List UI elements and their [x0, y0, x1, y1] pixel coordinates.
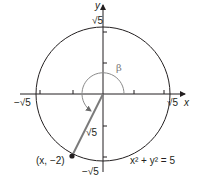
point-label: (x, −2)	[36, 155, 65, 166]
tick-label-bottom: −√5	[82, 166, 99, 177]
tick-label-left: −√5	[14, 97, 31, 108]
point-marker	[69, 153, 74, 158]
tick-label-right: √5	[167, 97, 178, 108]
y-axis-label: y	[94, 0, 101, 11]
x-ticks	[40, 90, 164, 94]
segment-length-label: √5	[86, 127, 97, 138]
tick-label-top: √5	[92, 15, 103, 26]
x-axis-label: x	[183, 97, 190, 108]
coordinate-diagram: y x √5 √5 −√5 −√5 β √5 (x, −2) x² + y² =…	[0, 0, 197, 189]
circle-equation: x² + y² = 5	[130, 155, 175, 166]
terminal-side	[72, 94, 103, 156]
angle-label-beta: β	[116, 62, 122, 73]
